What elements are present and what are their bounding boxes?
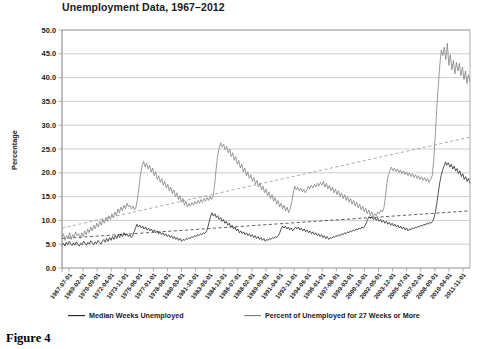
y-tick-label: 20.0 [42, 168, 56, 177]
x-tick-marks [69, 268, 463, 272]
y-tick-label: 50.0 [42, 26, 56, 35]
y-tick-label: 45.0 [42, 49, 56, 58]
series-line-percent-27-weeks [62, 43, 470, 240]
y-tick-label: 35.0 [42, 97, 56, 106]
y-tick-label: 40.0 [42, 73, 56, 82]
y-tick-label: 10.0 [42, 216, 56, 225]
y-tick-label: 25.0 [42, 145, 56, 154]
legend: Median Weeks UnemployedPercent of Unempl… [68, 311, 420, 320]
unemployment-line-chart: 0.05.010.015.020.025.030.035.040.045.050… [0, 0, 494, 330]
trend-lines [62, 137, 470, 238]
data-series [62, 43, 470, 246]
trend-line-percent-27-weeks [62, 137, 470, 228]
figure-caption: Figure 4 [6, 331, 51, 346]
legend-label: Median Weeks Unemployed [89, 311, 184, 320]
x-tick-labels: 1967-07-011969-02-011970-09-011972-04-01… [48, 271, 467, 300]
y-tick-label: 5.0 [46, 240, 56, 249]
y-tick-label: 15.0 [42, 192, 56, 201]
figure-container: Unemployment Data, 1967–2012 0.05.010.01… [0, 0, 494, 349]
y-axis-label: Percentage [10, 130, 19, 170]
y-tick-label: 30.0 [42, 121, 56, 130]
legend-label: Percent of Unemployed for 27 Weeks or Mo… [265, 311, 420, 320]
y-tick-labels: 0.05.010.015.020.025.030.035.040.045.050… [42, 26, 56, 273]
y-tick-label: 0.0 [46, 264, 56, 273]
